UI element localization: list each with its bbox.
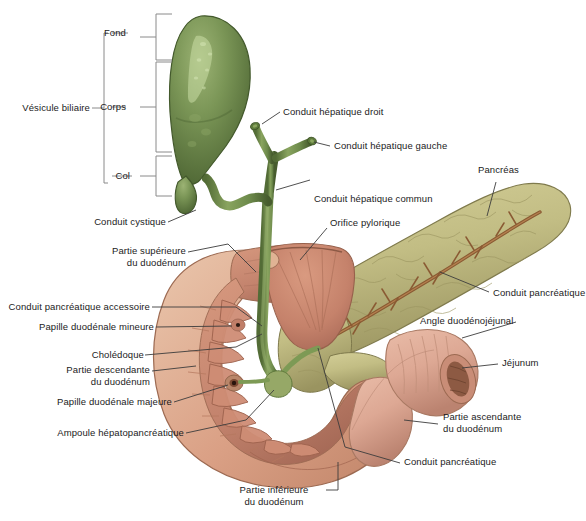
- label-conduit-hepatique-gauche: Conduit hépatique gauche: [334, 140, 447, 152]
- label-jejunum: Jéjunum: [502, 357, 539, 369]
- label-papille-duodenale-mineure: Papille duodénale mineure: [22, 321, 154, 333]
- anatomical-figure: Vésicule biliaire Fond Corps Col Conduit…: [0, 0, 586, 521]
- label-partie-superieure: Partie supérieure du duodénum: [84, 245, 186, 268]
- label-conduit-pancreatique-accessoire: Conduit pancréatique accessoire: [4, 301, 150, 313]
- label-col: Col: [92, 170, 130, 182]
- label-angle-duodenojejunal: Angle duodénojéjunal: [420, 315, 513, 327]
- label-fond: Fond: [86, 27, 126, 39]
- label-corps: Corps: [80, 101, 126, 113]
- label-orifice-pylorique: Orifice pylorique: [330, 217, 400, 229]
- label-conduit-cystique: Conduit cystique: [44, 216, 166, 228]
- label-conduit-hepatique-droit: Conduit hépatique droit: [283, 106, 384, 118]
- label-vesicule-biliaire: Vésicule biliaire: [0, 102, 90, 114]
- label-ampoule-hepatopancreatique: Ampoule hépatopancréatique: [48, 427, 184, 439]
- label-pancreas: Pancréas: [478, 164, 519, 176]
- label-partie-inferieure: Partie inférieure du duodénum: [222, 484, 326, 507]
- label-choledoque: Cholédoque: [62, 349, 144, 361]
- label-conduit-hepatique-commun: Conduit hépatique commun: [314, 193, 433, 205]
- minor-papilla: [231, 319, 245, 331]
- label-partie-descendante: Partie descendante du duodénum: [44, 364, 150, 387]
- label-conduit-pancreatique-bas: Conduit pancréatique: [404, 456, 496, 468]
- label-partie-ascendante: Partie ascendante du duodénum: [443, 411, 521, 434]
- label-papille-duodenale-majeure: Papille duodénale majeure: [34, 396, 172, 408]
- label-conduit-pancreatique-droite: Conduit pancréatique: [493, 287, 585, 299]
